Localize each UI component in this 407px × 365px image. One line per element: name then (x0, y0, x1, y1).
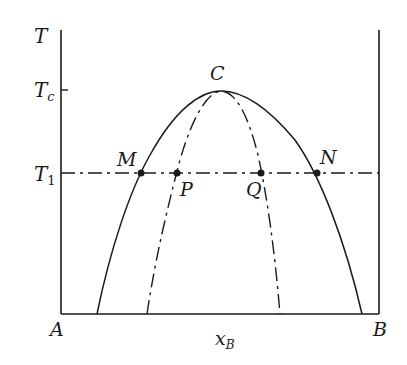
t1-label: T1 (34, 162, 56, 188)
label-q: Q (246, 178, 262, 200)
label-b: B (372, 318, 387, 340)
spinodal-curve (147, 91, 280, 314)
y-axis-label: T (34, 24, 49, 48)
point-p (174, 170, 181, 177)
binodal-curve (97, 91, 362, 314)
label-n: N (319, 146, 338, 168)
point-n (314, 170, 321, 177)
x-axis-label: xB (215, 327, 235, 352)
tc-label: Tc (34, 78, 55, 104)
label-m: M (116, 148, 137, 170)
point-m (138, 170, 145, 177)
phase-diagram: T Tc T1 C M P Q N A B xB (0, 0, 407, 365)
label-a: A (48, 318, 64, 340)
label-p: P (179, 178, 194, 200)
label-c: C (210, 62, 225, 84)
point-q (258, 170, 265, 177)
